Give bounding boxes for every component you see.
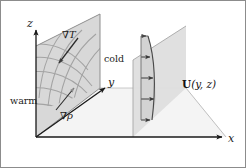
velocity-field-arguments: (y, z) <box>191 78 216 90</box>
diagram-canvas: z y x ∇T ∇ρ cold warm U(y, z) <box>0 0 246 168</box>
figure-container: z y x ∇T ∇ρ cold warm U(y, z) <box>0 0 246 168</box>
label-warm-region: warm <box>10 95 37 106</box>
axis-x-label: x <box>228 132 235 145</box>
label-cold-region: cold <box>104 53 124 64</box>
gradient-density-label: ∇ρ <box>60 110 73 121</box>
gradient-temperature-label: ∇T <box>62 29 77 40</box>
velocity-field-symbol: U <box>182 78 191 90</box>
axis-y-label: y <box>107 76 115 89</box>
velocity-field-label: U(y, z) <box>182 78 216 90</box>
axis-z-label: z <box>26 17 33 30</box>
